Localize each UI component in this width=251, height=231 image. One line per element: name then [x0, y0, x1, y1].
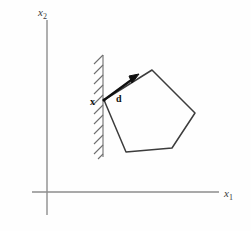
feasible-direction-figure: x2 x1 x d	[0, 0, 251, 231]
base-point-label-x: x	[90, 97, 95, 107]
axis-label-x2: x2	[38, 7, 47, 21]
figure-canvas	[0, 0, 251, 231]
direction-vector-label-d: d	[116, 94, 122, 104]
base-point-marker	[102, 98, 105, 101]
axis-label-x1: x1	[224, 188, 233, 202]
feasible-region-pentagon	[104, 70, 195, 152]
constraint-wall-hatching	[94, 55, 103, 159]
